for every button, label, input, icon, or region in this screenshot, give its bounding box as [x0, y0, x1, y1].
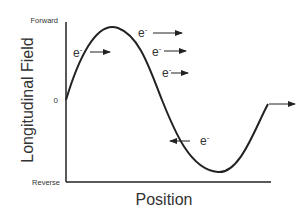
y-label-zero: 0: [54, 96, 59, 105]
electron-label-2: e-: [138, 25, 148, 40]
field-curve: [66, 27, 268, 172]
field-diagram: e- e- e- e- e- Forward 0 Reverse Longitu…: [0, 0, 305, 217]
y-label-reverse: Reverse: [32, 178, 60, 187]
electron-label-4: e-: [162, 65, 172, 80]
electron-label-5: e-: [200, 133, 210, 148]
x-axis-title: Position: [136, 191, 193, 208]
electron-label-3: e-: [152, 44, 162, 59]
diagram-canvas: e- e- e- e- e- Forward 0 Reverse Longitu…: [0, 0, 305, 217]
y-label-forward: Forward: [30, 16, 58, 25]
y-axis-title: Longitudinal Field: [19, 37, 36, 162]
